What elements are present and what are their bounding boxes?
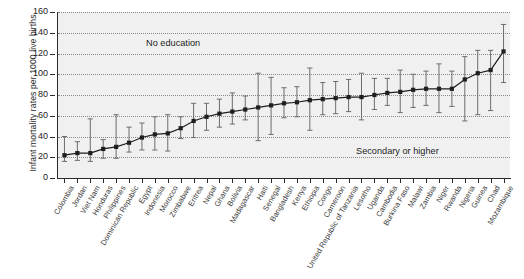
data-point-marker: [372, 93, 376, 97]
data-series-svg: [58, 12, 510, 178]
x-axis-tick: [297, 179, 298, 183]
data-point-marker: [501, 49, 505, 53]
data-point-marker: [127, 141, 131, 145]
y-axis-tick: [50, 33, 55, 34]
y-axis-tick-label: 20: [0, 151, 48, 161]
x-axis-tick: [336, 179, 337, 183]
data-point-marker: [437, 87, 441, 91]
error-bar: [230, 93, 235, 124]
data-point-marker: [476, 71, 480, 75]
x-axis-tick: [129, 179, 130, 183]
data-point-marker: [204, 115, 208, 119]
y-axis-tick-label: 0: [0, 172, 48, 182]
chart-figure: Infant mortality rates per 1000 live bir…: [0, 0, 524, 279]
series-layer: [58, 12, 510, 178]
x-axis-tick: [284, 179, 285, 183]
data-point-marker: [489, 68, 493, 72]
x-axis-tick: [504, 179, 505, 183]
y-axis-tick: [50, 95, 55, 96]
data-point-marker: [282, 101, 286, 105]
y-axis-tick-label: 80: [0, 89, 48, 99]
x-axis-tick: [194, 179, 195, 183]
y-axis-tick-label: 120: [0, 48, 48, 58]
y-axis-tick: [50, 116, 55, 117]
data-point-marker: [179, 126, 183, 130]
annotation-no-education: No education: [146, 38, 200, 48]
x-axis-tick: [439, 179, 440, 183]
data-point-marker: [217, 112, 221, 116]
x-axis-tick: [232, 179, 233, 183]
x-axis-tick: [361, 179, 362, 183]
data-point-marker: [62, 153, 66, 157]
x-axis-tick: [207, 179, 208, 183]
x-axis-tick: [219, 179, 220, 183]
data-point-marker: [411, 88, 415, 92]
data-point-marker: [269, 103, 273, 107]
x-axis-tick: [310, 179, 311, 183]
y-axis-tick-label: 60: [0, 110, 48, 120]
x-axis-category-labels: ColombiaJordanViet NamHondurasPhilippine…: [0, 184, 524, 279]
data-point-marker: [295, 100, 299, 104]
data-point-marker: [256, 105, 260, 109]
y-axis-tick-label: 40: [0, 131, 48, 141]
data-point-marker: [166, 131, 170, 135]
x-axis-tick: [413, 179, 414, 183]
x-axis-tick: [491, 179, 492, 183]
y-axis-tick: [50, 157, 55, 158]
y-axis-tick: [50, 54, 55, 55]
x-axis-tick: [155, 179, 156, 183]
data-point-marker: [192, 119, 196, 123]
data-point-marker: [243, 107, 247, 111]
data-point-marker: [308, 98, 312, 102]
y-axis-tick-label: 100: [0, 68, 48, 78]
data-point-marker: [463, 77, 467, 81]
x-axis-tick: [142, 179, 143, 183]
error-bar: [462, 57, 467, 121]
data-point-marker: [359, 95, 363, 99]
x-axis-tick: [400, 179, 401, 183]
data-point-marker: [334, 96, 338, 100]
y-axis-tick-label: 140: [0, 27, 48, 37]
data-point-marker: [114, 145, 118, 149]
data-point-marker: [346, 95, 350, 99]
x-axis-tick: [90, 179, 91, 183]
data-point-marker: [153, 132, 157, 136]
x-axis-tick: [181, 179, 182, 183]
x-axis-tick: [349, 179, 350, 183]
data-point-marker: [101, 147, 105, 151]
x-axis-tick: [258, 179, 259, 183]
x-axis-tick: [64, 179, 65, 183]
x-axis-tick: [271, 179, 272, 183]
x-axis-tick: [323, 179, 324, 183]
x-axis-tick: [245, 179, 246, 183]
y-axis-tick: [50, 137, 55, 138]
y-axis-tick: [50, 74, 55, 75]
x-axis-tick: [452, 179, 453, 183]
data-point-marker: [140, 135, 144, 139]
data-point-marker: [424, 87, 428, 91]
error-bar: [475, 50, 480, 114]
x-axis-tick: [77, 179, 78, 183]
data-point-marker: [385, 91, 389, 95]
data-point-marker: [398, 90, 402, 94]
data-point-marker: [230, 110, 234, 114]
x-axis-tick: [465, 179, 466, 183]
y-axis-tick: [50, 12, 55, 13]
y-axis-tick: [50, 178, 55, 179]
data-point-marker: [88, 151, 92, 155]
y-axis-tick-label: 160: [0, 6, 48, 16]
x-axis-tick: [374, 179, 375, 183]
x-axis-tick: [116, 179, 117, 183]
error-bar: [62, 137, 67, 162]
x-axis-tick: [168, 179, 169, 183]
error-bar: [114, 115, 119, 159]
x-axis-tick: [103, 179, 104, 183]
data-point-marker: [450, 87, 454, 91]
data-point-marker: [75, 151, 79, 155]
x-axis-tick: [478, 179, 479, 183]
error-bar: [126, 127, 131, 152]
x-axis-tick: [426, 179, 427, 183]
data-point-marker: [321, 97, 325, 101]
x-axis-tick: [387, 179, 388, 183]
error-bar: [488, 50, 493, 110]
